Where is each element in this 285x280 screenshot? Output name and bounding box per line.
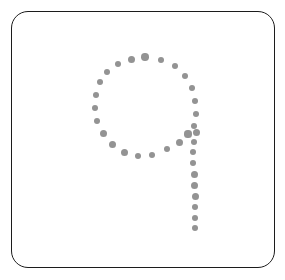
glyph-dot	[93, 92, 100, 99]
dotted-glyph-nine	[0, 0, 285, 280]
glyph-dot	[158, 57, 165, 64]
glyph-dot	[190, 160, 197, 167]
glyph-dot	[189, 85, 196, 92]
glyph-dot	[191, 182, 198, 189]
glyph-dot	[192, 98, 199, 105]
glyph-dot	[115, 61, 122, 68]
glyph-dot	[182, 73, 189, 80]
glyph-dot	[192, 204, 199, 211]
glyph-dot	[190, 149, 197, 156]
glyph-dot	[141, 53, 148, 60]
glyph-dot	[94, 118, 101, 125]
glyph-dot	[135, 153, 142, 160]
glyph-dot	[172, 63, 179, 70]
glyph-dot	[184, 130, 191, 137]
glyph-dot	[100, 130, 107, 137]
glyph-dot	[92, 105, 99, 112]
glyph-dot	[192, 193, 199, 200]
glyph-dot	[97, 79, 104, 86]
glyph-dot	[176, 139, 183, 146]
glyph-dot	[104, 69, 111, 76]
glyph-dot	[128, 56, 135, 63]
image-canvas	[0, 0, 285, 280]
glyph-dot	[164, 146, 171, 153]
glyph-dot	[109, 141, 116, 148]
glyph-dot	[149, 152, 155, 158]
glyph-dot	[193, 111, 200, 118]
glyph-dot	[121, 149, 128, 156]
glyph-dot	[192, 215, 199, 222]
glyph-dot	[191, 171, 198, 178]
glyph-dot	[193, 129, 200, 136]
glyph-dot	[191, 139, 198, 146]
glyph-dot	[192, 225, 199, 232]
